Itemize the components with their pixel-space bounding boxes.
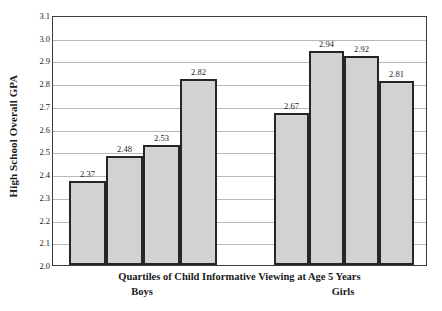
y-tick-label: 2.6 xyxy=(26,125,50,134)
y-tick-label: 2.5 xyxy=(26,148,50,157)
bar-girls-q2 xyxy=(309,51,344,265)
bar-girls-q4 xyxy=(379,81,414,265)
y-tick-label: 2.9 xyxy=(26,57,50,66)
bar-boys-q3 xyxy=(143,145,180,265)
y-tick-label: 2.1 xyxy=(26,239,50,248)
bar-boys-q1 xyxy=(69,181,106,265)
y-tick-label: 2.4 xyxy=(26,171,50,180)
bar-value-label: 2.94 xyxy=(309,40,344,49)
y-tick-label: 2.8 xyxy=(26,80,50,89)
y-tick-label: 2.7 xyxy=(26,102,50,111)
bar-value-label: 2.67 xyxy=(274,102,309,111)
bar-girls-q1 xyxy=(274,113,309,265)
y-tick-label: 2.3 xyxy=(26,193,50,202)
y-tick-label: 2.2 xyxy=(26,216,50,225)
x-axis-title: Quartiles of Child Informative Viewing a… xyxy=(52,270,427,283)
bar-value-label: 2.53 xyxy=(143,134,180,143)
bars-layer: 2.372.482.532.822.672.942.922.81 xyxy=(53,17,426,265)
y-tick-label: 3.1 xyxy=(26,12,50,21)
bar-value-label: 2.92 xyxy=(344,45,379,54)
bar-value-label: 2.48 xyxy=(106,145,143,154)
plot-area: 2.372.482.532.822.672.942.922.81 xyxy=(52,16,427,266)
y-axis-tick-labels: 3.13.02.92.82.72.62.52.42.32.22.12.0 xyxy=(22,16,50,266)
group-label-boys: Boys xyxy=(82,285,202,298)
bar-girls-q3 xyxy=(344,56,379,265)
group-label-girls: Girls xyxy=(283,285,403,298)
bar-value-label: 2.82 xyxy=(180,68,217,77)
bar-chart: High School Overall GPA 3.13.02.92.82.72… xyxy=(0,0,442,311)
bar-boys-q4 xyxy=(180,79,217,265)
bar-value-label: 2.81 xyxy=(379,70,414,79)
bar-boys-q2 xyxy=(106,156,143,265)
y-tick-label: 3.0 xyxy=(26,34,50,43)
bar-value-label: 2.37 xyxy=(69,170,106,179)
y-tick-label: 2.0 xyxy=(26,262,50,271)
y-axis-title-text: High School Overall GPA xyxy=(7,75,19,198)
